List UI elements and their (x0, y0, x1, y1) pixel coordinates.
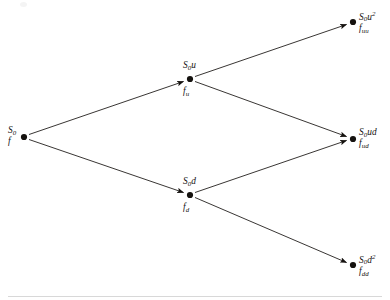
edge-up-updown (195, 82, 347, 137)
node-upup[interactable] (350, 19, 356, 25)
node-upup-option-label: fuu (359, 23, 376, 34)
node-root-labels: S0 f (8, 125, 16, 146)
node-down[interactable] (187, 192, 193, 198)
edge-down-updown (195, 141, 347, 193)
node-up-asset-label: S0u (183, 60, 196, 71)
node-up[interactable] (187, 76, 193, 82)
bottom-divider (8, 296, 382, 297)
node-updown-asset-label: S0ud (359, 127, 377, 138)
node-down-asset-label: S0d (183, 176, 196, 187)
binomial-tree-figure: S0 f S0u fu S0d fd S0u2 fuu S0ud fud S0d… (0, 0, 390, 300)
edge-root-up (29, 82, 184, 135)
node-root[interactable] (21, 134, 27, 140)
tree-edges-canvas (0, 0, 390, 300)
node-downdown-asset-label: S0d2 (359, 253, 376, 266)
node-root-option-label: f (8, 136, 16, 146)
edge-down-downdown (195, 198, 347, 263)
node-root-asset-label: S0 (8, 125, 16, 136)
node-downdown-labels: S0d2 fdd (359, 253, 376, 277)
edge-root-down (29, 140, 184, 193)
edge-up-upup (195, 25, 347, 77)
node-updown-option-label: fud (359, 138, 377, 149)
node-upup-asset-label: S0u2 (359, 10, 376, 23)
node-downdown-option-label: fdd (359, 266, 376, 277)
node-downdown[interactable] (350, 262, 356, 268)
node-upup-labels: S0u2 fuu (359, 10, 376, 34)
node-down-option-label: fd (183, 202, 189, 213)
node-updown-labels: S0ud fud (359, 127, 377, 149)
node-up-option-label: fu (183, 86, 189, 97)
node-updown[interactable] (350, 136, 356, 142)
